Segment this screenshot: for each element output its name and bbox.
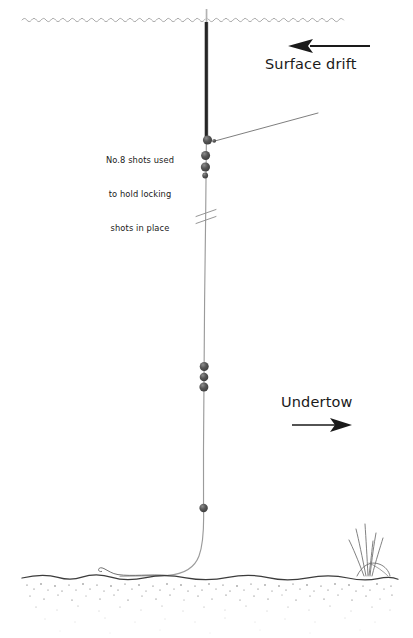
- shot: [202, 173, 208, 179]
- riverbed-line: [22, 575, 398, 580]
- locking-shots-note-line-1: No.8 shots used: [90, 155, 190, 166]
- shot: [200, 373, 209, 382]
- water-surface-line: [22, 18, 344, 21]
- shot: [200, 362, 209, 371]
- leader-line: [212, 113, 318, 143]
- fishing-rig-diagram: No.8 shots used to hold locking shots in…: [0, 0, 413, 638]
- undertow-arrow: [292, 418, 352, 432]
- shot: [203, 135, 212, 144]
- hook-length-on-bed: [99, 568, 168, 576]
- undertow-label: Undertow: [281, 394, 411, 410]
- shot: [199, 504, 207, 512]
- shot: [201, 151, 210, 160]
- mid-shot-group: [199, 362, 208, 392]
- waggler-float-body: [205, 22, 209, 138]
- reeds: [349, 524, 390, 576]
- float-antenna: [205, 9, 207, 23]
- locking-shots-note-line-3: shots in place: [90, 223, 190, 234]
- dropper-shot-group: [199, 504, 207, 512]
- shot: [201, 162, 210, 171]
- surface-drift-arrow: [288, 39, 370, 53]
- locking-shots-note-line-2: to hold locking: [90, 189, 190, 200]
- surface-drift-label: Surface drift: [265, 56, 405, 72]
- shot: [199, 383, 208, 392]
- riverbed-stipple: [26, 583, 392, 633]
- locking-shots-note: No.8 shots used to hold locking shots in…: [90, 132, 190, 257]
- diagram-canvas: [0, 0, 413, 638]
